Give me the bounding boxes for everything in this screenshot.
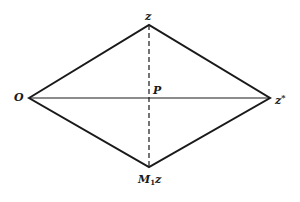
label-z-star: z* — [275, 93, 285, 106]
label-m1z-tail: z — [155, 173, 161, 186]
label-m1z-base: M — [138, 173, 150, 186]
label-center-p: P — [153, 85, 161, 96]
rhombus-diagram — [0, 0, 300, 202]
label-z-top: z — [145, 11, 151, 22]
label-m1z-bottom: M1z — [138, 174, 161, 186]
label-origin-o: O — [14, 92, 24, 103]
label-z-star-sup: * — [281, 92, 285, 102]
